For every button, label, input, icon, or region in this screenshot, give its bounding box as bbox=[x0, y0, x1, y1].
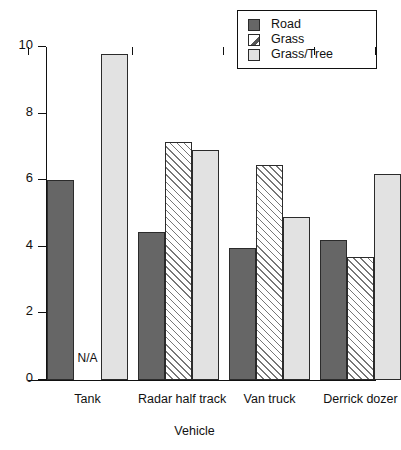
x-axis-group-label: Van truck bbox=[229, 392, 310, 406]
x-axis-group-label: Radar half track bbox=[138, 392, 219, 406]
y-axis-tick: 6 bbox=[38, 179, 46, 180]
x-axis-tick bbox=[132, 47, 133, 55]
y-axis-tick-label: 6 bbox=[26, 171, 33, 185]
bar-road-van-truck bbox=[229, 248, 256, 380]
y-axis-tick: 8 bbox=[38, 113, 46, 114]
bar-missing-value-label: N/A bbox=[74, 352, 101, 380]
legend-label-grass: Grass bbox=[271, 33, 304, 46]
y-axis-tick: 2 bbox=[38, 312, 46, 313]
plot-area: 1086420N/A bbox=[46, 47, 376, 380]
bar-road-tank bbox=[47, 180, 74, 380]
legend-item-road: Road bbox=[248, 17, 368, 32]
bar-grasstree-radar-half-track bbox=[192, 150, 219, 380]
legend-label-road: Road bbox=[271, 18, 301, 31]
bar-grasstree-tank bbox=[101, 54, 128, 380]
y-axis-tick-label: 4 bbox=[26, 238, 33, 252]
x-axis-line bbox=[28, 380, 376, 381]
legend-swatch-grass-icon bbox=[248, 34, 260, 46]
y-axis-tick: 0 bbox=[38, 379, 46, 380]
bar-grass-van-truck bbox=[256, 165, 283, 380]
y-axis-tick-label: 0 bbox=[26, 371, 33, 385]
y-axis-tick-label: 8 bbox=[26, 105, 33, 119]
bar-grasstree-derrick-dozer bbox=[374, 174, 401, 380]
x-axis-group-label: Tank bbox=[47, 392, 128, 406]
y-axis-tick: 4 bbox=[38, 246, 46, 247]
bar-road-derrick-dozer bbox=[320, 240, 347, 380]
bar-road-radar-half-track bbox=[138, 232, 165, 380]
y-axis-tick-label: 10 bbox=[19, 38, 33, 52]
x-axis-start-tick bbox=[28, 47, 29, 55]
bar-grass-derrick-dozer bbox=[347, 257, 374, 380]
x-axis-tick bbox=[314, 47, 315, 55]
x-axis-end-tick bbox=[375, 47, 376, 55]
bar-grasstree-van-truck bbox=[283, 217, 310, 380]
x-axis-title: Vehicle bbox=[0, 424, 389, 438]
legend-swatch-road-icon bbox=[248, 19, 260, 31]
legend-item-grass: Grass bbox=[248, 32, 368, 47]
y-axis-tick: 10 bbox=[38, 46, 46, 47]
x-axis-group-label: Derrick dozer bbox=[320, 392, 401, 406]
y-axis-tick-label: 2 bbox=[26, 304, 33, 318]
bar-grass-radar-half-track bbox=[165, 142, 192, 380]
x-axis-tick bbox=[223, 47, 224, 55]
